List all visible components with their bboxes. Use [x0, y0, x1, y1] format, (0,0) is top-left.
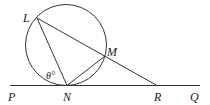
secant-line-lr	[37, 18, 157, 86]
label-p: P	[7, 90, 16, 104]
label-l: L	[22, 11, 30, 25]
label-r: R	[153, 90, 162, 104]
label-n: N	[62, 90, 72, 104]
label-m: M	[106, 45, 118, 59]
angle-theta-label: θ°	[46, 70, 55, 81]
geometry-diagram: L M N P Q R θ°	[0, 0, 210, 105]
chord-nm	[67, 56, 105, 86]
circle	[26, 5, 107, 86]
label-q: Q	[190, 90, 199, 104]
